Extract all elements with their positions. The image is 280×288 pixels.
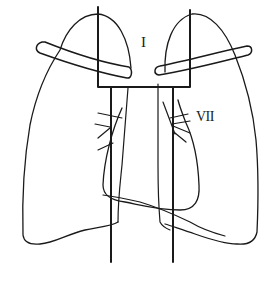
left-clavicle <box>36 42 131 78</box>
field-label-hilar: VII <box>196 110 214 124</box>
right-hilar-vessels <box>163 102 190 142</box>
left-lung-outline <box>23 14 131 244</box>
chest-diagram <box>0 0 280 288</box>
field-label-upper: I <box>141 35 146 50</box>
